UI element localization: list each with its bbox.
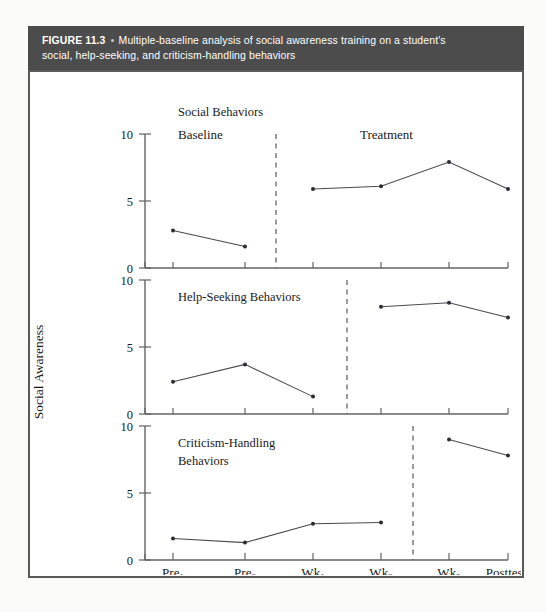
xticklabel-wk1: Wk1 [301,565,324,575]
figure-caption-line1: Multiple-baseline analysis of social awa… [119,34,446,46]
panel2-baseline-point [311,395,315,399]
panel3-ylabel-5: 5 [127,487,133,501]
panel1-treatment-point [447,160,451,164]
panel3-ylabel-0: 0 [127,554,133,568]
xticklabel-posttest: Posttest [486,565,521,575]
panel2-ylabel-10: 10 [121,274,134,288]
figure-header-bar: FIGURE 11.3Multiple-baseline analysis of… [28,26,524,70]
panel3-baseline-point [379,521,383,525]
panel1-treatment-point [506,187,510,191]
panel2-treatment-point [506,316,510,320]
panel1-baseline-point [243,245,247,249]
panel3-ylabel-10: 10 [121,420,134,434]
panel1-ylabel-10: 10 [121,128,134,142]
panel-social-behaviors: 10 5 0 Social Behaviors Baseline Treatme… [121,105,511,276]
bullet-dot-icon [111,39,114,42]
panel1-title: Social Behaviors [178,105,263,119]
panel2-baseline-series [173,364,313,396]
panel2-ylabel-5: 5 [127,341,133,355]
panel3-baseline-point [311,522,315,526]
panel2-treatment-point [447,301,451,305]
xticklabel-pre2: Pre2 [234,565,256,575]
x-axis-tick-labels: Pre1 Pre2 Wk1 Wk2 Wk3 Posttest [162,565,521,575]
panel1-treatment-point [311,187,315,191]
figure-container: FIGURE 11.3Multiple-baseline analysis of… [28,26,524,578]
panel3-title-line1: Criticism-Handling [178,436,276,450]
panel3-title-line2: Behaviors [178,454,229,468]
panel2-baseline-point [171,380,175,384]
figure-number: FIGURE 11.3 [42,34,106,46]
panel1-baseline-series [173,231,245,247]
panel1-baseline-point [171,229,175,233]
figure-caption: FIGURE 11.3Multiple-baseline analysis of… [42,33,512,62]
panel-criticism-handling-behaviors: 10 5 0 Criticism-Handling Behaviors [121,420,511,568]
panel2-treatment-point [379,305,383,309]
panel2-baseline-point [243,362,247,366]
panel2-title: Help-Seeking Behaviors [178,290,301,304]
panel1-ylabel-5: 5 [127,195,133,209]
plot-frame: Social Awareness 10 5 0 [28,70,524,578]
panel3-treatment-point [447,437,451,441]
panel3-baseline-series [173,523,381,543]
y-axis-label: Social Awareness [31,325,46,419]
panel3-treatment-point [506,454,510,458]
panel1-treatment-point [379,184,383,188]
panel-help-seeking-behaviors: 10 5 0 Help-Seeking Behaviors [121,274,511,422]
xticklabel-pre1: Pre1 [162,565,184,575]
multiple-baseline-chart: Social Awareness 10 5 0 [30,72,521,575]
panel3-baseline-point [171,537,175,541]
panel1-treatment-series [313,162,508,189]
panel3-baseline-point [243,541,247,545]
panel3-treatment-series [449,439,508,455]
panel1-phase-treatment: Treatment [360,127,413,142]
panel2-treatment-series [381,303,508,318]
xticklabel-wk2: Wk2 [369,565,392,575]
xticklabel-wk3: Wk3 [437,565,461,575]
panel1-phase-baseline: Baseline [178,127,223,142]
figure-caption-line2: social, help-seeking, and criticism-hand… [42,49,295,61]
